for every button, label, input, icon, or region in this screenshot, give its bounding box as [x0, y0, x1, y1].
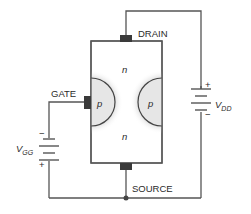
source-label: SOURCE — [132, 183, 173, 194]
p-region-right-label: p — [147, 98, 153, 109]
n-region-top-label: n — [122, 64, 127, 75]
p-region-left-label: p — [96, 98, 102, 109]
vgg-minus-sign: − — [39, 128, 45, 139]
drain-label: DRAIN — [138, 28, 168, 39]
vdd-label: VDD — [215, 99, 231, 112]
n-region-bottom-label: n — [122, 131, 127, 142]
vgg-plus-sign: + — [39, 159, 45, 170]
vdd-minus-sign: − — [205, 109, 211, 120]
gate-label: GATE — [51, 88, 76, 99]
gate-contact — [84, 96, 91, 109]
vgg-label: VGG — [16, 143, 34, 156]
drain-contact — [120, 35, 132, 42]
jfet-circuit-diagram: DRAIN GATE SOURCE n n p p VDD + − VGG − … — [0, 0, 251, 214]
vdd-plus-sign: + — [205, 79, 211, 90]
vgg-battery — [39, 139, 59, 160]
source-contact — [120, 163, 132, 170]
junction-dot — [124, 196, 129, 201]
